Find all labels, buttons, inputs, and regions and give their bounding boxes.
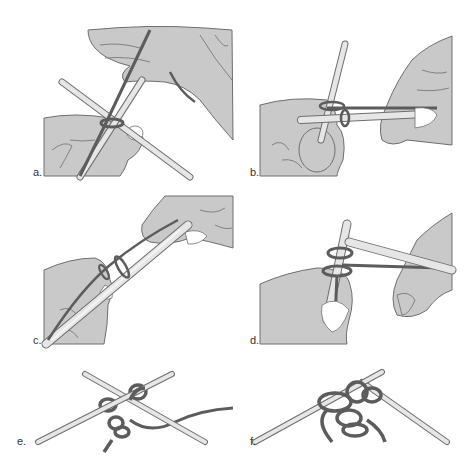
panel-label-b: b. — [250, 167, 259, 178]
panel-c-illustration — [0, 180, 237, 360]
panel-label-d: d. — [250, 335, 259, 346]
panel-label-c: c. — [33, 335, 42, 346]
right-hand — [380, 36, 452, 145]
panel-e-illustration — [0, 360, 237, 471]
panel-a: a. — [0, 0, 237, 180]
panel-label-f: f. — [250, 436, 256, 447]
panel-a-illustration — [0, 0, 237, 180]
panel-e: e. — [0, 360, 237, 471]
panel-f-illustration — [237, 360, 474, 471]
panel-c: c. — [0, 180, 237, 360]
panel-b-illustration — [237, 0, 474, 180]
panel-b: b. — [237, 0, 474, 180]
panel-f: f. — [237, 360, 474, 471]
panel-label-e: e. — [17, 436, 26, 447]
panel-d-illustration — [237, 180, 474, 360]
panel-d: d. — [237, 180, 474, 360]
panel-label-a: a. — [33, 167, 42, 178]
